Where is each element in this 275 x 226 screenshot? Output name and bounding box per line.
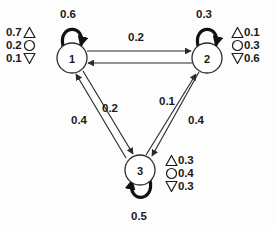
legend-node-1: 0.7 0.2 0.1 [6, 26, 36, 65]
legend-node-2-row-circle: 0.3 [231, 39, 259, 52]
edge-label-2-3: 0.4 [188, 114, 205, 126]
diagram-canvas: 1 2 3 0.6 0.3 0.5 0.2 0.2 0.4 0.4 0.1 0.… [0, 0, 275, 226]
legend-node-1-value-triangle-up: 0.7 [6, 26, 21, 39]
circle-icon [165, 167, 178, 180]
legend-node-2-row-triangle-down: 0.6 [231, 52, 259, 65]
legend-node-3-value-triangle-up: 0.3 [178, 154, 193, 167]
triangle-up-icon [165, 154, 178, 167]
legend-node-3-row-circle: 0.4 [165, 167, 193, 180]
circle-icon [23, 39, 36, 52]
self-loop-label-node-1: 0.6 [60, 8, 76, 20]
legend-node-2-value-triangle-down: 0.6 [244, 52, 259, 65]
edge-label-1-3: 0.2 [102, 102, 118, 114]
edge-label-3-2: 0.1 [159, 95, 176, 107]
triangle-down-icon [23, 52, 36, 65]
self-loop-label-node-3: 0.5 [131, 210, 148, 222]
legend-node-2-row-triangle-up: 0.1 [231, 26, 259, 39]
legend-node-3-row-triangle-down: 0.3 [165, 180, 193, 193]
legend-node-2-value-circle: 0.3 [244, 39, 259, 52]
legend-node-2: 0.1 0.3 0.6 [231, 26, 259, 65]
legend-node-1-row-triangle-up: 0.7 [6, 26, 36, 39]
legend-node-1-value-triangle-down: 0.1 [6, 52, 21, 65]
legend-node-1-row-triangle-down: 0.1 [6, 52, 36, 65]
circle-icon [231, 39, 244, 52]
node-2[interactable]: 2 [192, 43, 222, 73]
legend-node-1-value-circle: 0.2 [6, 39, 21, 52]
edge-label-3-1: 0.4 [71, 114, 88, 126]
legend-node-2-value-triangle-up: 0.1 [244, 26, 259, 39]
node-2-label: 2 [204, 53, 210, 65]
legend-node-3-value-triangle-down: 0.3 [178, 180, 193, 193]
legend-node-1-row-circle: 0.2 [6, 39, 36, 52]
triangle-up-icon [231, 26, 244, 39]
self-loop-label-node-2: 0.3 [196, 8, 212, 20]
node-3-label: 3 [137, 165, 143, 177]
legend-node-3-value-circle: 0.4 [178, 167, 193, 180]
triangle-down-icon [165, 180, 178, 193]
edge-label-1-2: 0.2 [128, 31, 144, 43]
node-1[interactable]: 1 [57, 43, 87, 73]
node-1-label: 1 [69, 53, 75, 65]
triangle-down-icon [231, 52, 244, 65]
legend-node-3-row-triangle-up: 0.3 [165, 154, 193, 167]
triangle-up-icon [23, 26, 36, 39]
legend-node-3: 0.3 0.4 0.3 [165, 154, 193, 193]
node-3[interactable]: 3 [125, 155, 155, 185]
